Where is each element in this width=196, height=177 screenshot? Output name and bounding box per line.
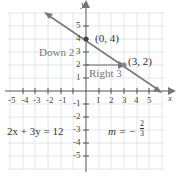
y-tick: -5 [73, 151, 81, 160]
slope-fraction: 23 [140, 119, 144, 138]
point-3-2 [122, 63, 127, 68]
y-tick: 2 [76, 60, 81, 69]
y-tick: -3 [73, 125, 81, 134]
y-tick: -4 [73, 138, 81, 147]
point-0-4 [84, 37, 89, 42]
y-tick: 4 [76, 34, 81, 43]
rise-label: Down 2 [39, 47, 74, 58]
y-tick: 3 [76, 47, 81, 56]
y-tick: 5 [76, 21, 81, 30]
y-tick: 1 [76, 73, 81, 82]
y-tick: -1 [73, 99, 81, 108]
x-tick: -1 [59, 96, 67, 105]
slope-label: m = − [108, 126, 135, 137]
x-tick: -3 [33, 96, 41, 105]
x-tick: 5 [147, 96, 152, 105]
x-tick: -2 [46, 96, 54, 105]
x-tick: 1 [96, 96, 101, 105]
x-tick: 3 [122, 96, 127, 105]
run-label: Right 3 [89, 68, 122, 79]
x-tick: -5 [8, 96, 16, 105]
y-tick: -2 [73, 112, 81, 121]
x-axis-label: x [168, 94, 172, 103]
y-axis-label: y [81, 0, 85, 9]
x-tick: 2 [109, 96, 114, 105]
coordinate-plane [0, 0, 196, 177]
point-b-label: (3, 2) [128, 56, 152, 67]
x-tick: -4 [21, 96, 29, 105]
equation-label: 2x + 3y = 12 [7, 126, 63, 137]
x-tick: 4 [134, 96, 139, 105]
point-a-label: (0, 4) [95, 33, 119, 44]
